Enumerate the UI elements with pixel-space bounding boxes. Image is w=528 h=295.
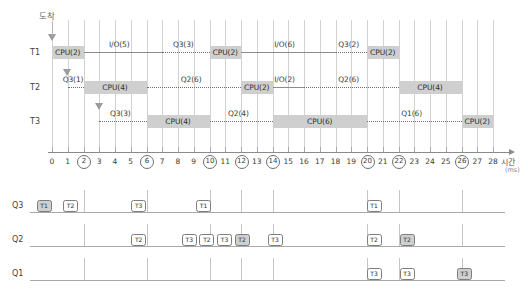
queue-baseline-q1 (30, 280, 505, 281)
grid-line (147, 20, 148, 152)
axis-tick-label: 22 (392, 155, 406, 169)
axis-tick-label: 19 (343, 157, 359, 166)
axis-tick (68, 147, 69, 152)
queue-separator (147, 224, 148, 246)
axis-tick (147, 147, 148, 152)
queue-separator (399, 190, 400, 212)
queue-wait-line (147, 87, 242, 88)
axis-tick-label: 16 (296, 157, 312, 166)
queue-separator (84, 224, 85, 246)
queue-token-t3[interactable]: T3 (182, 234, 197, 246)
queue-wait-line (304, 87, 399, 88)
axis-tick-label: 20 (361, 155, 375, 169)
queue-wait-label: Q1(6) (401, 109, 422, 118)
axis-tick-label: 1 (60, 157, 76, 166)
queue-separator (147, 190, 148, 212)
axis-tick-label: 6 (140, 155, 154, 169)
io-segment-label: I/O(5) (109, 40, 130, 49)
queue-token-t1[interactable]: T1 (196, 200, 211, 212)
axis-tick (115, 147, 116, 152)
queue-token-t3[interactable]: T3 (268, 234, 283, 246)
queue-separator (210, 258, 211, 280)
grid-line (162, 20, 163, 152)
queue-wait-line (210, 121, 273, 122)
grid-line (383, 20, 384, 152)
grid-line (477, 20, 478, 152)
cpu-burst-bar: CPU(2) (462, 115, 494, 128)
axis-tick (178, 147, 179, 152)
queue-wait-label: Q3(2) (338, 40, 359, 49)
axis-tick (430, 147, 431, 152)
grid-line (225, 20, 226, 152)
axis-tick-label: 10 (203, 155, 217, 169)
axis-tick (462, 147, 463, 152)
queue-wait-line (367, 121, 462, 122)
grid-line (210, 20, 211, 152)
queue-token-t3[interactable]: T3 (457, 268, 472, 280)
queue-separator (84, 190, 85, 212)
cpu-burst-bar: CPU(2) (52, 46, 84, 59)
queue-token-t2[interactable]: T2 (131, 234, 146, 246)
cpu-burst-bar: CPU(2) (367, 46, 399, 59)
axis-tick (52, 147, 53, 152)
queue-token-t3[interactable]: T3 (131, 200, 146, 212)
queue-token-t2[interactable]: T2 (235, 234, 250, 246)
queue-token-t2[interactable]: T2 (367, 234, 382, 246)
queue-token-t3[interactable]: T3 (217, 234, 232, 246)
axis-baseline (48, 152, 511, 153)
cpu-burst-bar: CPU(2) (210, 46, 242, 59)
queue-wait-label: Q3(3) (173, 40, 194, 49)
axis-tick (477, 147, 478, 152)
axis-unit-label: (ms) (505, 166, 520, 174)
axis-tick (273, 147, 274, 152)
axis-tick-label: 17 (312, 157, 328, 166)
queue-label-q1: Q1 (12, 269, 23, 278)
grid-line (336, 20, 337, 152)
grid-line (194, 20, 195, 152)
axis-tick-label: 18 (328, 157, 344, 166)
axis-tick (194, 147, 195, 152)
axis-tick-label: 5 (123, 157, 139, 166)
cpu-burst-bar: CPU(4) (147, 115, 210, 128)
io-segment-label: I/O(6) (274, 40, 295, 49)
axis-arrow-icon (509, 149, 515, 155)
axis-tick-label: 26 (455, 155, 469, 169)
queue-token-t2[interactable]: T2 (199, 234, 214, 246)
axis-tick-label: 23 (406, 157, 422, 166)
queue-separator (462, 190, 463, 212)
axis-tick (225, 147, 226, 152)
queue-wait-line (336, 52, 368, 53)
queue-token-t2[interactable]: T2 (400, 234, 415, 246)
queue-separator (462, 224, 463, 246)
axis-tick (241, 147, 242, 152)
queue-wait-line (68, 87, 84, 88)
axis-tick (131, 147, 132, 152)
queue-wait-line (162, 52, 209, 53)
queue-token-t2[interactable]: T2 (63, 200, 78, 212)
grid-line (493, 20, 494, 152)
queue-label-q2: Q2 (12, 235, 23, 244)
queue-wait-label: Q3(1) (63, 75, 84, 84)
queue-token-t3[interactable]: T3 (400, 268, 415, 280)
axis-tick (367, 147, 368, 152)
io-wait-line (241, 52, 336, 53)
scheduling-gantt-diagram: 도착 T1CPU(2)I/O(5)Q3(3)CPU(2)I/O(6)Q3(2)C… (0, 0, 528, 295)
cpu-burst-bar: CPU(4) (84, 81, 147, 94)
thread-label-t1: T1 (30, 48, 40, 57)
axis-tick-label: 3 (91, 157, 107, 166)
io-wait-line (84, 52, 163, 53)
queue-baseline-q3 (30, 212, 505, 213)
axis-tick-label: 8 (170, 157, 186, 166)
queue-label-q3: Q3 (12, 201, 23, 210)
queue-separator (273, 258, 274, 280)
io-segment-label: I/O(2) (274, 75, 295, 84)
axis-tick-label: 9 (186, 157, 202, 166)
grid-line (367, 20, 368, 152)
axis-tick (351, 147, 352, 152)
queue-token-t3[interactable]: T3 (367, 268, 382, 280)
axis-tick (493, 147, 494, 152)
queue-token-t1[interactable]: T1 (37, 200, 52, 212)
queue-separator (241, 190, 242, 212)
axis-tick (162, 147, 163, 152)
queue-token-t1[interactable]: T1 (367, 200, 382, 212)
